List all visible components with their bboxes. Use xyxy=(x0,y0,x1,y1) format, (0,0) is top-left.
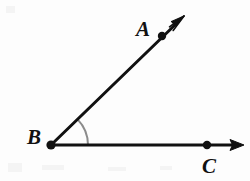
point-label-a: A xyxy=(136,19,150,40)
point-dot-a xyxy=(158,32,166,40)
angle-diagram-figure: A B C xyxy=(0,0,250,181)
point-dot-b xyxy=(46,140,55,149)
point-dot-c xyxy=(203,141,211,149)
point-label-b: B xyxy=(27,127,41,148)
point-label-c: C xyxy=(202,156,216,177)
